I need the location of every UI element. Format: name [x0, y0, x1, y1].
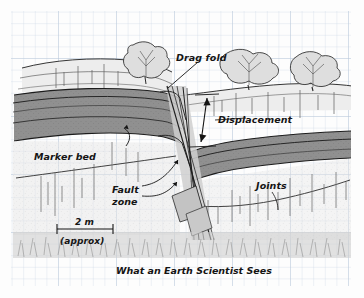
label-drag-fold: Drag fold: [176, 52, 227, 63]
cross-section-drawing: Drag fold Displacement Marker bed Fault …: [0, 0, 364, 298]
label-fault-zone-line2: zone: [111, 196, 138, 207]
figure-canvas: Drag fold Displacement Marker bed Fault …: [0, 0, 364, 298]
label-fault-zone-line1: Fault: [112, 184, 139, 195]
label-marker-bed: Marker bed: [34, 151, 96, 162]
label-joints: Joints: [254, 180, 287, 191]
scale-bar-value: 2 m: [75, 217, 94, 227]
scale-bar-qualifier: (approx): [60, 236, 104, 246]
figure-caption: What an Earth Scientist Sees: [116, 265, 272, 276]
label-displacement: Displacement: [218, 114, 293, 125]
